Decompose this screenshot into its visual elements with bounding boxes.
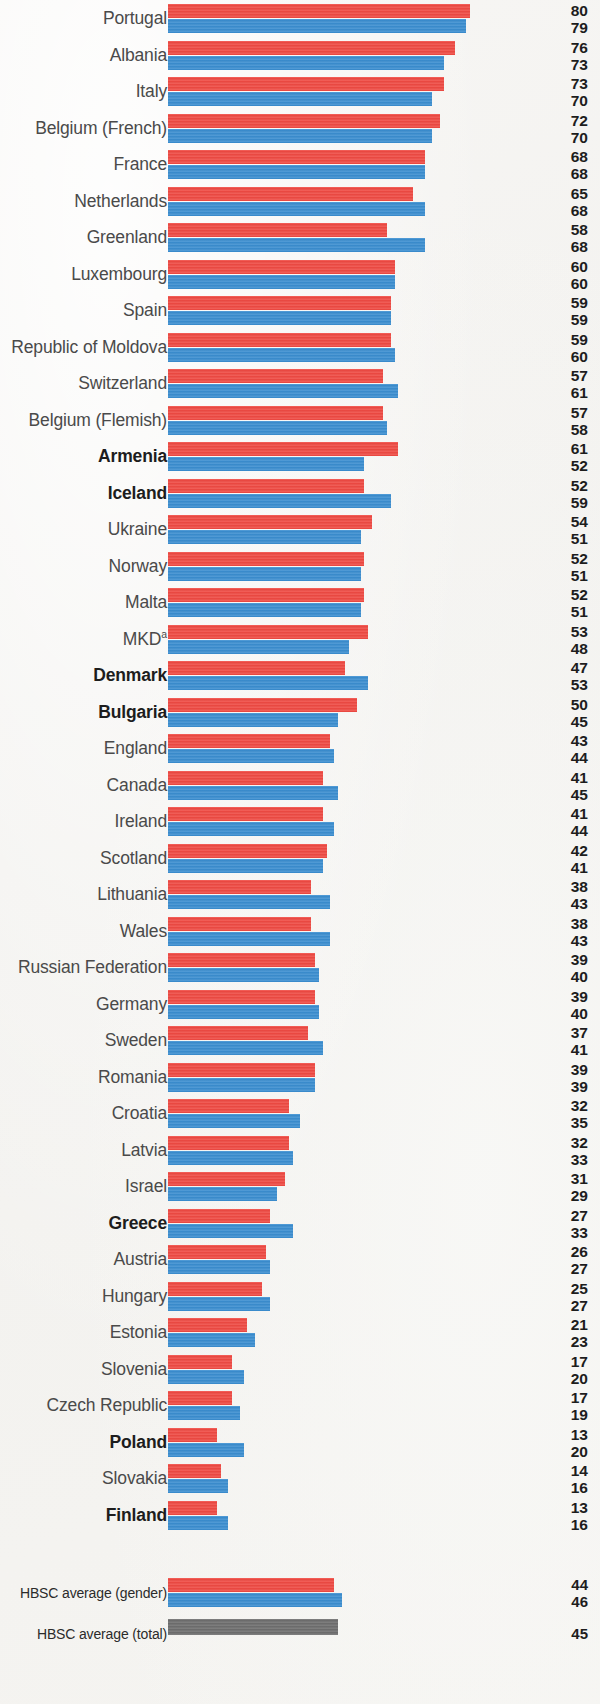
- bar-boys: [168, 333, 391, 347]
- bar-boys: [168, 1282, 262, 1296]
- value-labels: 5960: [571, 331, 588, 365]
- bar-boys: [168, 661, 345, 675]
- bar-texture: [168, 1245, 266, 1259]
- value-labels: 6060: [571, 258, 588, 292]
- bar-boys: [168, 771, 323, 785]
- bar-boys: [168, 1464, 221, 1478]
- bar-texture: [168, 640, 349, 654]
- bar-boys: [168, 1391, 232, 1405]
- value-girls: 33: [571, 1151, 588, 1168]
- bar-texture: [168, 114, 440, 128]
- country-label: Canada: [107, 777, 167, 795]
- country-label: Greenland: [87, 229, 167, 247]
- chart-row: Slovenia1720: [0, 1352, 600, 1388]
- value-labels: 3233: [571, 1134, 588, 1168]
- value-girls: 59: [571, 311, 588, 328]
- bar-texture: [168, 859, 323, 873]
- value-labels: 5348: [571, 623, 588, 657]
- value-girls: 51: [571, 530, 588, 547]
- bar-group: [168, 880, 568, 911]
- value-girls: 79: [571, 19, 588, 36]
- chart-row: France6868: [0, 147, 600, 183]
- bar-texture: [168, 296, 391, 310]
- value-girls: 70: [571, 92, 588, 109]
- chart-row: Germany3940: [0, 987, 600, 1023]
- value-labels: 3843: [571, 878, 588, 912]
- value-girls: 16: [571, 1516, 588, 1533]
- bar-texture: [168, 4, 470, 18]
- bar-boys: [168, 187, 413, 201]
- chart-row: Greenland5868: [0, 220, 600, 256]
- bar-boys: [168, 1209, 270, 1223]
- bar-boys: [168, 844, 327, 858]
- bar-boys: [168, 1026, 308, 1040]
- value-boys: 52: [571, 477, 588, 494]
- value-labels: 2733: [571, 1207, 588, 1241]
- country-label: Israel: [125, 1178, 167, 1196]
- value-labels: 3939: [571, 1061, 588, 1095]
- bar-texture: [168, 150, 425, 164]
- bar-girls: [168, 238, 425, 252]
- value-boys: 41: [571, 805, 588, 822]
- bar-texture: [168, 1151, 293, 1165]
- bar-boys: [168, 515, 372, 529]
- bar-boys: [168, 807, 323, 821]
- bar-boys: [168, 698, 357, 712]
- value-labels: 1416: [571, 1462, 588, 1496]
- bar-girls: [168, 1333, 255, 1347]
- bar-texture: [168, 1428, 217, 1442]
- bar-girls: [168, 1406, 240, 1420]
- bar-texture: [168, 771, 323, 785]
- bar-group: [168, 552, 568, 583]
- value-girls: 70: [571, 129, 588, 146]
- bar-group: [168, 1391, 568, 1422]
- country-label: Romania: [98, 1069, 167, 1087]
- value-labels: 7370: [571, 75, 588, 109]
- bar-texture: [168, 369, 383, 383]
- bar-group: [168, 698, 568, 729]
- bar-girls: [168, 275, 395, 289]
- bar-texture: [168, 457, 364, 471]
- bar-group: [168, 990, 568, 1021]
- bar-girls: [168, 1297, 270, 1311]
- bar-group: [168, 406, 568, 437]
- value-boys: 61: [571, 440, 588, 457]
- value-boys: 26: [571, 1243, 588, 1260]
- chart-row: Belgium (Flemish)5758: [0, 403, 600, 439]
- chart-row: Ireland4144: [0, 804, 600, 840]
- value-girls: 68: [571, 165, 588, 182]
- value-labels: 7270: [571, 112, 588, 146]
- bar-group: [168, 771, 568, 802]
- country-label: Ukraine: [108, 521, 167, 539]
- value-boys: 73: [571, 75, 588, 92]
- bar-girls: [168, 567, 361, 581]
- value-boys: 14: [571, 1462, 588, 1479]
- bar-texture: [168, 1516, 228, 1530]
- bar-boys: [168, 917, 311, 931]
- bar-girls: [168, 202, 425, 216]
- chart-row: Slovakia1416: [0, 1461, 600, 1497]
- bar-texture: [168, 625, 368, 639]
- value-boys: 50: [571, 696, 588, 713]
- bar-texture: [168, 676, 368, 690]
- value-boys: 68: [571, 148, 588, 165]
- bar-boys: [168, 1136, 289, 1150]
- country-label: Sweden: [105, 1032, 167, 1050]
- value-girls: 43: [571, 932, 588, 949]
- bar-group: [168, 150, 568, 181]
- bar-group: [168, 515, 568, 546]
- value-boys: 47: [571, 659, 588, 676]
- bar-group: [168, 4, 568, 35]
- value-boys: 32: [571, 1097, 588, 1114]
- value-girls: 61: [571, 384, 588, 401]
- bar-texture: [168, 384, 398, 398]
- chart-row: Republic of Moldova5960: [0, 330, 600, 366]
- country-label: Czech Republic: [47, 1397, 167, 1415]
- value-labels: 5959: [571, 294, 588, 328]
- bar-girls: [168, 1479, 228, 1493]
- value-girls: 16: [571, 1479, 588, 1496]
- bar-boys: [168, 734, 330, 748]
- bar-group: [168, 1026, 568, 1057]
- bar-texture: [168, 494, 391, 508]
- chart-row: Romania3939: [0, 1060, 600, 1096]
